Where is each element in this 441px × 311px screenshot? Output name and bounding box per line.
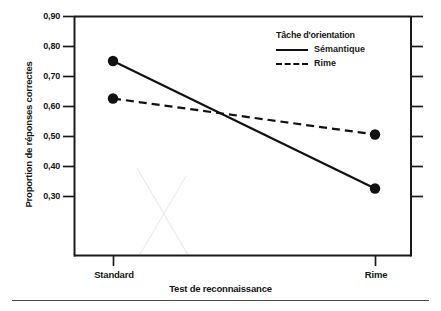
series-rime xyxy=(108,93,380,139)
data-point-marker xyxy=(108,56,118,66)
x-tick-label-standard: Standard xyxy=(78,269,150,280)
figure-container: 0,90 0,80 0,70 0,60 0,50 0,40 0,30 Stand… xyxy=(0,0,441,311)
legend-line-sample-solid-icon xyxy=(276,49,308,54)
x-axis-ticks xyxy=(114,256,376,266)
y-axis-title: Proportion de réponses correctes xyxy=(23,35,34,235)
data-point-marker xyxy=(370,129,380,139)
x-axis-title: Test de reconnaissance xyxy=(0,283,441,294)
scan-artifact-x xyxy=(137,168,188,256)
legend-title: Tâche d'orientation xyxy=(276,30,355,40)
data-point-marker xyxy=(108,93,118,103)
chart-legend: Tâche d'orientation Sémantique Rime xyxy=(262,30,392,70)
legend-label-semantique: Sémantique xyxy=(314,44,365,54)
series-semantique xyxy=(108,56,380,194)
legend-line-sample-dashed-icon xyxy=(276,63,308,68)
x-tick-label-rime: Rime xyxy=(345,269,407,280)
data-point-marker xyxy=(370,183,380,193)
legend-label-rime: Rime xyxy=(314,58,336,68)
y-tick-label-0-90: 0,90 xyxy=(26,11,60,21)
page-divider-rule xyxy=(12,300,429,301)
